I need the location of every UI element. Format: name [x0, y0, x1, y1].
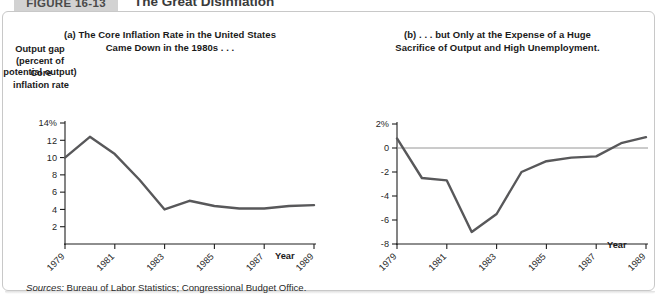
svg-text:12: 12 [47, 136, 57, 146]
svg-text:1989: 1989 [626, 251, 648, 273]
svg-text:1981: 1981 [95, 251, 117, 273]
chart-b-ylabel-line3: potential [3, 67, 42, 77]
figure-panel: (a) The Core Inflation Rate in the Unite… [2, 11, 655, 291]
svg-text:1989: 1989 [294, 251, 316, 273]
chart-b-ylabel-line4: output) [45, 67, 77, 77]
svg-text:1985: 1985 [194, 251, 216, 273]
svg-text:4: 4 [52, 205, 57, 215]
svg-text:-4: -4 [381, 191, 389, 201]
svg-text:1981: 1981 [427, 251, 449, 273]
chart-b-ylabel-line1: Output gap [15, 44, 65, 54]
svg-text:1983: 1983 [476, 251, 498, 273]
svg-text:1987: 1987 [244, 251, 266, 273]
svg-text:-6: -6 [381, 215, 389, 225]
svg-text:14%: 14% [39, 118, 57, 128]
svg-text:2%: 2% [376, 119, 389, 129]
svg-text:-2: -2 [381, 167, 389, 177]
svg-text:0: 0 [384, 143, 389, 153]
chart-b-ylabel-line2: (percent of [16, 56, 64, 66]
svg-text:-8: -8 [381, 239, 389, 249]
svg-text:6: 6 [52, 187, 57, 197]
svg-text:1983: 1983 [144, 251, 166, 273]
svg-text:1979: 1979 [377, 251, 399, 273]
svg-text:1985: 1985 [526, 251, 548, 273]
svg-text:1979: 1979 [45, 251, 67, 273]
chart-panel-b: (b) . . . but Only at the Expense of a H… [335, 23, 659, 273]
svg-text:10: 10 [47, 153, 57, 163]
figure-title: The Great Disinflation [134, 0, 274, 11]
svg-text:1987: 1987 [576, 251, 598, 273]
svg-text:2: 2 [52, 222, 57, 232]
panel-shadow [5, 291, 655, 294]
chart-a-x-axis-label: Year [275, 251, 295, 261]
chart-b-x-axis-label: Year [607, 240, 627, 250]
chart-b-plot: 2%0-2-4-6-8197919811983198519871989 [335, 23, 659, 273]
svg-text:8: 8 [52, 170, 57, 180]
chart-b-y-axis-label: Output gap (percent of potential output) [3, 44, 77, 79]
